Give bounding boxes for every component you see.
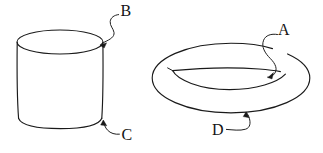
pointer-d: D bbox=[212, 112, 250, 138]
label-c: C bbox=[122, 126, 133, 143]
cylinder-left-side bbox=[17, 42, 19, 118]
pointer-c: C bbox=[101, 120, 133, 143]
label-a: A bbox=[278, 21, 290, 38]
pointer-b: B bbox=[100, 2, 132, 48]
pointer-c-arrowhead bbox=[101, 120, 107, 126]
label-b: B bbox=[121, 2, 132, 19]
torus-inner-hole-upper bbox=[173, 68, 281, 72]
solids-diagram: Cylinder and torus line diagram bbox=[0, 0, 323, 153]
cylinder-top-rim bbox=[17, 30, 103, 54]
cylinder-shape bbox=[17, 30, 103, 129]
label-d: D bbox=[212, 121, 224, 138]
torus-outer-edge-left bbox=[152, 43, 310, 113]
cylinder-bottom-arc bbox=[19, 118, 102, 128]
pointer-a-arrowhead bbox=[268, 73, 274, 79]
torus-inner-hole-lower bbox=[173, 71, 286, 90]
torus-inner-hole-left-tick bbox=[168, 68, 173, 71]
cylinder-right-side bbox=[102, 42, 103, 118]
torus-shape bbox=[152, 43, 310, 113]
figure-canvas: Cylinder and torus line diagram bbox=[0, 0, 323, 153]
pointer-c-leader bbox=[104, 121, 120, 134]
